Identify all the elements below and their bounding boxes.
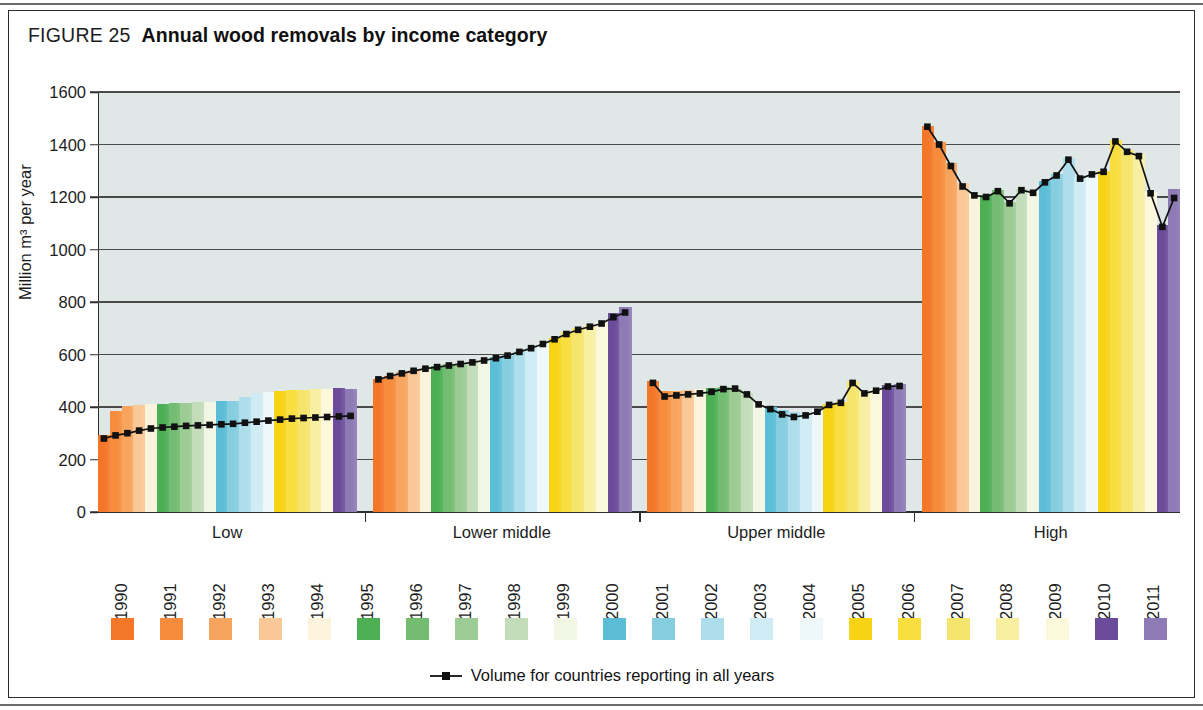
bar-high-1994 (969, 194, 981, 512)
bar-high-2000 (1039, 181, 1051, 512)
bar-high-1996 (992, 190, 1004, 512)
year-label-2001: 2001 (653, 583, 672, 620)
bar-lower-middle-2006 (561, 332, 573, 512)
bar-upper-middle-2001 (776, 410, 788, 512)
group-tick-3 (914, 512, 916, 522)
year-color-legend (98, 618, 1180, 642)
bar-low-1997 (180, 403, 192, 512)
bar-upper-middle-1998 (741, 393, 753, 512)
bar-lower-middle-1995 (431, 366, 443, 512)
year-label-2007: 2007 (948, 583, 967, 620)
bottom-rule (0, 704, 1203, 706)
year-swatch-2004 (800, 618, 823, 640)
bar-lower-middle-1991 (384, 376, 396, 513)
bar-low-2000 (216, 401, 228, 512)
year-axis-labels: 1990199119921993199419951996199719981999… (98, 548, 1180, 620)
y-tick-mark-1600 (90, 91, 98, 93)
y-tick-mark-1000 (90, 249, 98, 251)
year-swatch-2000 (603, 618, 626, 640)
year-swatch-1995 (357, 618, 380, 640)
group-axis: LowLower middleUpper middleHigh (98, 512, 1180, 546)
bar-low-2003 (251, 393, 263, 512)
y-axis-title: Million m³ per year (16, 164, 35, 300)
year-label-1994: 1994 (308, 583, 327, 620)
bar-high-2004 (1086, 173, 1098, 512)
bar-high-2009 (1145, 192, 1157, 512)
bar-lower-middle-1992 (396, 372, 408, 512)
bar-upper-middle-2010 (882, 385, 894, 512)
bar-lower-middle-2004 (537, 343, 549, 512)
bar-low-2010 (333, 388, 345, 512)
series-legend: Volume for countries reporting in all ye… (0, 666, 1203, 685)
bar-series-layer (98, 92, 1180, 512)
year-label-2010: 2010 (1095, 583, 1114, 620)
y-tick-1200: 1200 (16, 188, 86, 207)
group-label-lower-middle: Lower middle (453, 523, 551, 542)
bar-high-2007 (1121, 150, 1133, 512)
line-marker-icon (429, 669, 463, 683)
year-swatch-1990 (111, 618, 134, 640)
bar-lower-middle-2009 (596, 322, 608, 512)
bar-upper-middle-2008 (859, 391, 871, 512)
year-label-1992: 1992 (210, 583, 229, 620)
bar-upper-middle-2000 (765, 407, 777, 512)
y-tick-mark-400 (90, 406, 98, 408)
year-swatch-2007 (947, 618, 970, 640)
year-swatch-1997 (455, 618, 478, 640)
plot-area (98, 92, 1180, 512)
bar-high-1999 (1027, 191, 1039, 512)
bar-lower-middle-1997 (455, 363, 467, 512)
bar-high-1990 (922, 126, 934, 512)
bar-low-2002 (239, 397, 251, 513)
year-swatch-1991 (160, 618, 183, 640)
bar-upper-middle-2003 (800, 412, 812, 512)
year-swatch-2010 (1095, 618, 1118, 640)
bar-upper-middle-2006 (835, 402, 847, 512)
year-label-1998: 1998 (505, 583, 524, 620)
bar-lower-middle-2003 (525, 347, 537, 512)
year-label-2006: 2006 (899, 583, 918, 620)
bar-upper-middle-1990 (647, 381, 659, 512)
group-label-low: Low (212, 523, 242, 542)
year-label-2011: 2011 (1144, 585, 1163, 620)
year-swatch-2005 (849, 618, 872, 640)
year-swatch-1994 (308, 618, 331, 640)
bar-upper-middle-2005 (823, 404, 835, 512)
y-tick-mark-1400 (90, 144, 98, 146)
year-swatch-1999 (554, 618, 577, 640)
bar-high-2008 (1133, 154, 1145, 512)
year-swatch-2008 (996, 618, 1019, 640)
bar-low-1999 (204, 402, 216, 512)
bar-lower-middle-1990 (373, 379, 385, 512)
bar-upper-middle-1991 (659, 391, 671, 512)
bar-upper-middle-1992 (671, 391, 683, 512)
bar-lower-middle-2000 (490, 357, 502, 512)
year-swatch-2002 (701, 618, 724, 640)
bar-upper-middle-1999 (753, 402, 765, 512)
y-tick-mark-600 (90, 354, 98, 356)
y-tick-mark-200 (90, 459, 98, 461)
year-label-2008: 2008 (997, 583, 1016, 620)
figure-container: FIGURE 25 Annual wood removals by income… (0, 0, 1203, 710)
y-tick-0: 0 (16, 503, 86, 522)
bar-upper-middle-1997 (729, 389, 741, 512)
group-tick-1 (365, 512, 367, 522)
bar-lower-middle-2001 (502, 355, 514, 513)
year-label-2002: 2002 (702, 583, 721, 620)
bar-high-1997 (1004, 202, 1016, 512)
bar-low-1998 (192, 402, 204, 512)
bar-high-2005 (1098, 171, 1110, 512)
bar-upper-middle-2004 (812, 409, 824, 512)
bar-lower-middle-1993 (408, 370, 420, 512)
bar-lower-middle-1996 (443, 364, 455, 512)
bar-upper-middle-2011 (894, 384, 906, 512)
bar-lower-middle-2011 (619, 307, 631, 512)
bar-lower-middle-1998 (467, 361, 479, 512)
group-label-high: High (1034, 523, 1068, 542)
bar-low-1991 (110, 411, 122, 512)
bar-high-1998 (1016, 189, 1028, 512)
y-tick-200: 200 (16, 450, 86, 469)
bar-high-2001 (1051, 174, 1063, 512)
year-swatch-2011 (1144, 618, 1167, 640)
year-label-1997: 1997 (456, 583, 475, 620)
